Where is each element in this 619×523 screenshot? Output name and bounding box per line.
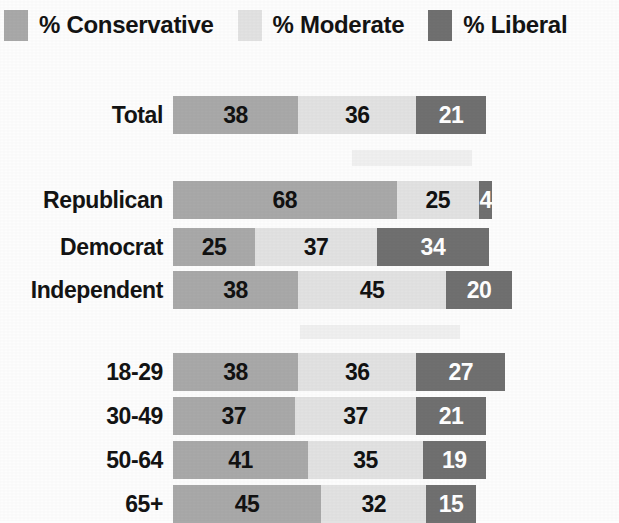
stacked-bar: 383627 [173,353,505,391]
legend-item-liberal: % Liberal [428,10,567,41]
bar-segment-moderate: 37 [255,228,377,266]
bar-segment-value: 45 [360,279,385,302]
row-label: 50-64 [0,441,163,479]
bar-segment-liberal: 21 [416,96,485,134]
legend-label-liberal: % Liberal [463,11,567,39]
bar-segment-liberal: 4 [479,181,492,219]
bar-segment-value: 38 [223,104,248,127]
bar-segment-value: 38 [223,279,248,302]
stacked-bar: 384520 [173,271,512,309]
bar-segment-liberal: 27 [416,353,505,391]
bar-segment-moderate: 32 [321,485,426,523]
stacked-bar: 453215 [173,485,476,523]
bar-segment-value: 37 [343,405,368,428]
row-label: Republican [0,181,163,219]
bar-segment-value: 41 [228,449,253,472]
bar-segment-conservative: 38 [173,271,298,309]
legend-item-conservative: % Conservative [4,10,214,41]
legend-swatch-moderate-icon [238,10,262,41]
bar-segment-value: 25 [426,189,451,212]
chart-legend: % Conservative % Moderate % Liberal [0,4,619,46]
legend-label-conservative: % Conservative [39,11,214,39]
bar-segment-conservative: 38 [173,96,298,134]
bar-segment-liberal: 19 [423,441,486,479]
row-label: Democrat [0,228,163,266]
bar-segment-conservative: 38 [173,353,298,391]
bar-segment-value: 45 [235,493,260,516]
bar-segment-value: 4 [479,189,491,212]
bar-segment-conservative: 45 [173,485,321,523]
bar-segment-conservative: 41 [173,441,308,479]
bar-segment-value: 38 [223,361,248,384]
bar-segment-moderate: 37 [295,397,417,435]
row-label: Independent [0,271,163,309]
bar-segment-value: 25 [202,236,227,259]
bar-segment-moderate: 45 [298,271,446,309]
stacked-bar: 413519 [173,441,486,479]
row-label: 30-49 [0,397,163,435]
stacked-bar: 68254 [173,181,492,219]
bar-segment-value: 27 [449,361,474,384]
bar-segment-liberal: 20 [446,271,512,309]
legend-swatch-conservative-icon [4,10,28,41]
stacked-bar: 383621 [173,96,486,134]
bar-segment-value: 34 [421,236,446,259]
bar-segment-value: 37 [222,405,247,428]
bar-segment-moderate: 35 [308,441,423,479]
bar-segment-conservative: 37 [173,397,295,435]
stacked-bar: 253734 [173,228,489,266]
bar-segment-value: 35 [353,449,378,472]
bar-segment-value: 36 [345,104,370,127]
bar-segment-value: 37 [304,236,329,259]
scan-artifact [352,150,472,166]
legend-swatch-liberal-icon [428,10,452,41]
bar-segment-value: 15 [439,493,464,516]
bar-segment-value: 36 [345,361,370,384]
bar-segment-value: 20 [467,279,492,302]
row-label: 65+ [0,485,163,523]
legend-item-moderate: % Moderate [238,10,405,41]
legend-label-moderate: % Moderate [273,11,405,39]
bar-segment-moderate: 36 [298,96,416,134]
bar-segment-liberal: 34 [377,228,489,266]
bar-segment-value: 68 [273,189,298,212]
bar-segment-value: 21 [439,405,464,428]
stacked-bar: 373721 [173,397,486,435]
bar-segment-value: 21 [439,104,464,127]
bar-segment-moderate: 25 [397,181,479,219]
scan-artifact [300,325,460,339]
bar-segment-moderate: 36 [298,353,416,391]
bar-segment-value: 32 [361,493,386,516]
bar-segment-conservative: 25 [173,228,255,266]
row-label: 18-29 [0,353,163,391]
bar-segment-conservative: 68 [173,181,397,219]
bar-segment-liberal: 15 [426,485,475,523]
bar-segment-value: 19 [442,449,467,472]
bar-segment-liberal: 21 [416,397,485,435]
row-label: Total [0,96,163,134]
